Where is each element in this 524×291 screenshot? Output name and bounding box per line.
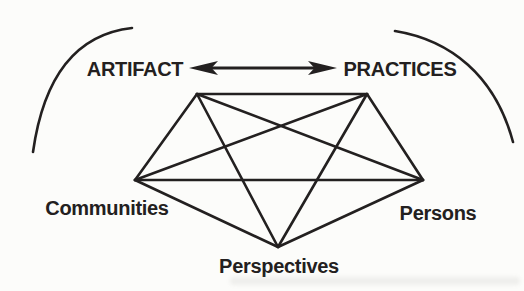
- edge-practices-perspectives: [278, 94, 367, 247]
- label-perspectives: Perspectives: [219, 256, 339, 276]
- edge-artifact-communities: [135, 94, 197, 180]
- edge-artifact-persons: [197, 94, 423, 180]
- edge-practices-persons: [367, 94, 423, 180]
- label-artifact: ARTIFACT: [87, 59, 183, 79]
- edge-practices-communities: [135, 94, 367, 180]
- diagram-canvas: ARTIFACT PRACTICES Communities Persons P…: [0, 0, 524, 291]
- pentagon-edges: [135, 94, 423, 247]
- label-communities: Communities: [45, 198, 168, 218]
- right-arc: [395, 31, 513, 142]
- scan-artifact-smudge: [230, 277, 520, 285]
- label-practices: PRACTICES: [344, 59, 457, 79]
- label-persons: Persons: [400, 203, 477, 223]
- edge-artifact-perspectives: [197, 94, 278, 247]
- identity-pentagon-diagram: [0, 0, 524, 291]
- left-arc: [33, 28, 132, 152]
